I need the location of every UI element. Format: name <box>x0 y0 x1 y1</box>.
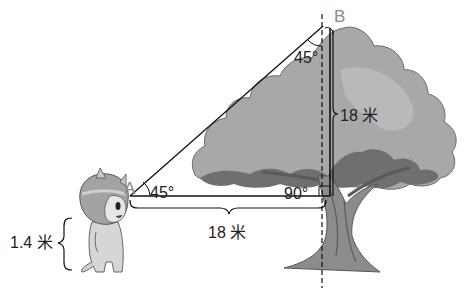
eye-height-brace <box>58 218 72 270</box>
vertical-height-label: 18 米 <box>340 108 378 124</box>
horizontal-brace <box>130 200 326 214</box>
cartoon-character-icon <box>80 168 128 272</box>
point-label-a: A <box>124 180 135 197</box>
angle-label-a: 45° <box>150 185 174 201</box>
angle-label-b: 45° <box>294 50 318 66</box>
right-angle-label: 90° <box>284 186 308 202</box>
eye-height-label: 1.4 米 <box>10 235 53 251</box>
point-label-b: B <box>334 8 345 25</box>
horizontal-distance-label: 18 米 <box>208 225 246 241</box>
diagram-scene: B A 45° 45° 90° 18 米 18 米 1.4 米 <box>0 0 475 293</box>
diagram-canvas <box>0 0 475 293</box>
